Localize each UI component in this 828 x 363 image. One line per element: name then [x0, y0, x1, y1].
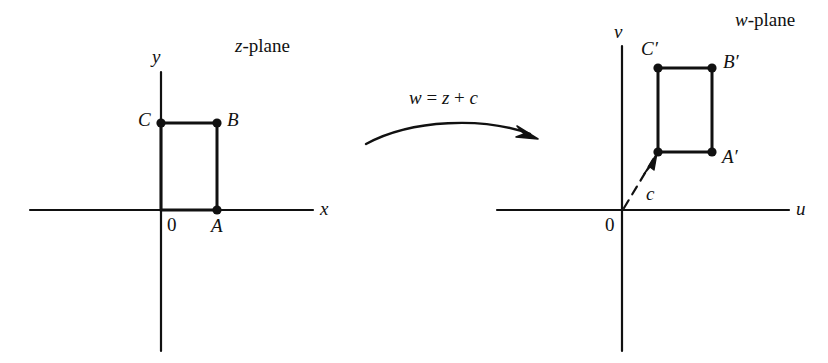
z-plane-title: z-plane [235, 36, 290, 55]
w-point-translated-origin-dot [653, 147, 662, 156]
translation-vector-c-label: c [646, 184, 654, 203]
z-point-B-dot [212, 118, 221, 127]
z-plane-y-axis-label: y [152, 47, 160, 66]
w-plane-rectangle [658, 68, 712, 152]
transform-arrow-curve [366, 123, 530, 144]
z-point-C-dot [156, 118, 165, 127]
complex-plane-translation-figure: z-plane y x 0 A B C w = z + c w-plane v … [0, 0, 828, 363]
w-point-C-prime-dot [653, 63, 662, 72]
w-plane-u-axis-label: u [796, 199, 806, 218]
formula-lhs: w [409, 87, 422, 108]
z-plane-rectangle [161, 123, 217, 210]
transform-arrow-head [516, 126, 538, 139]
w-point-A-prime-dot [707, 147, 716, 156]
w-point-B-prime-dot [707, 63, 716, 72]
w-plane-title-suffix: -plane [748, 9, 795, 30]
transform-arrow [366, 123, 538, 144]
w-point-C-prime-label: C′ [641, 39, 658, 58]
w-plane-origin-label: 0 [605, 215, 615, 234]
formula-equals: = [422, 87, 442, 108]
z-point-A-label: A [211, 216, 223, 235]
w-plane-v-axis-label: v [614, 22, 622, 41]
w-plane-title: w-plane [735, 10, 795, 29]
z-plane-x-axis-label: x [320, 199, 328, 218]
z-plane-origin-label: 0 [167, 215, 177, 234]
z-point-A-dot [212, 205, 221, 214]
diagram-canvas [0, 0, 828, 363]
formula-plus: + [449, 87, 469, 108]
w-plane-title-symbol: w [735, 9, 748, 30]
w-point-A-prime-label: A′ [722, 147, 738, 166]
z-plane-title-suffix: -plane [242, 35, 289, 56]
w-plane-axes [497, 46, 789, 351]
transform-formula: w = z + c [409, 88, 478, 107]
formula-rhs-second: c [470, 87, 478, 108]
translation-vector-c-arrowhead [644, 153, 657, 174]
z-point-B-label: B [227, 110, 239, 129]
z-point-C-label: C [138, 110, 151, 129]
w-point-B-prime-label: B′ [723, 52, 739, 71]
